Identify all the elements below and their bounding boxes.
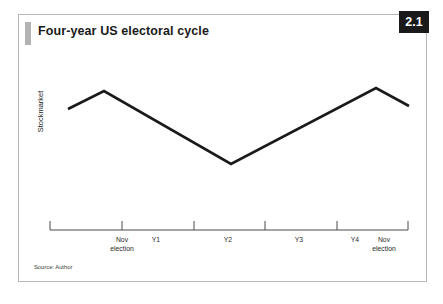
x-tick-label-y2: Y2 xyxy=(206,236,250,245)
x-tick-label-y1: Y1 xyxy=(134,236,178,245)
stockmarket-line-series xyxy=(68,88,409,164)
x-tick-label-y3: Y3 xyxy=(277,236,321,245)
chart-plot-area: Stockmarket Nov election Y1 Y2 Y3 Y4 Nov… xyxy=(19,15,426,281)
figure-container: Four-year US electoral cycle 2.1 Stockma… xyxy=(18,14,427,282)
source-credit: Source: Author xyxy=(34,264,72,270)
x-tick-label-nov-election-end: Nov election xyxy=(359,236,409,253)
